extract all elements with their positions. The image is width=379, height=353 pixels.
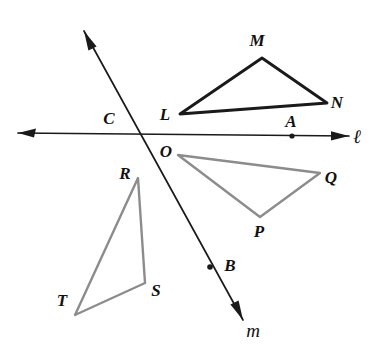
point-a-dot [289, 133, 294, 138]
point-b-dot [207, 264, 213, 270]
line-m [84, 31, 243, 320]
triangle-rst [75, 178, 145, 315]
line-l [18, 133, 349, 136]
label-N: N [330, 93, 344, 112]
label-B: B [223, 256, 235, 275]
label-line-m: m [246, 320, 260, 341]
line-m-bottom-arrowhead [230, 301, 243, 320]
label-S: S [151, 281, 160, 300]
geometry-diagram: L M N O Q P R S T A B C ℓ m [0, 0, 379, 353]
line-l-group [18, 129, 349, 141]
line-l-right-arrowhead [331, 131, 349, 140]
geometry-canvas: L M N O Q P R S T A B C ℓ m [0, 0, 379, 353]
line-m-group [84, 31, 243, 320]
label-T: T [57, 291, 68, 310]
label-O: O [160, 142, 172, 161]
label-M: M [248, 31, 265, 50]
line-l-left-arrowhead [18, 129, 36, 138]
label-P: P [253, 222, 265, 241]
label-Q: Q [325, 168, 337, 187]
label-R: R [118, 164, 130, 183]
label-A: A [284, 112, 296, 131]
label-C: C [103, 109, 115, 128]
label-line-l: ℓ [353, 126, 361, 147]
line-m-top-arrowhead [84, 31, 97, 50]
triangle-lmn [180, 58, 327, 114]
triangle-oqp [178, 155, 320, 217]
label-L: L [159, 105, 170, 124]
